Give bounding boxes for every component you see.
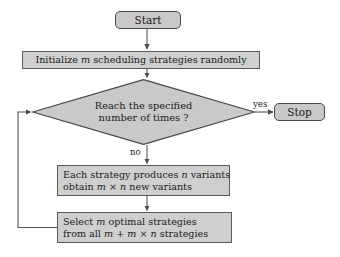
node-decision-label: Reach the specified number of times ? [95,100,192,124]
node-produce-variants[interactable]: Each strategy produces n variants obtain… [57,165,230,196]
select-line-2: from all m + m × n strategies [58,228,208,240]
node-stop[interactable]: Stop [274,103,325,121]
variants-line-2: obtain m × n new variants [58,181,192,193]
flowchart-canvas: Start Initialize m scheduling strategies… [0,0,340,257]
node-select-optimal[interactable]: Select m optimal strategies from all m +… [57,212,232,243]
select-line-1: Select m optimal strategies [58,216,197,228]
node-initialize-label: Initialize m scheduling strategies rando… [35,54,246,66]
node-initialize[interactable]: Initialize m scheduling strategies rando… [22,51,260,69]
decision-line-1: Reach the specified [95,100,192,112]
edge-label-no: no [130,147,141,157]
edge-label-yes: yes [253,99,267,109]
node-stop-label: Stop [287,106,311,119]
variants-line-1: Each strategy produces n variants [58,169,230,181]
decision-line-2: number of times ? [95,112,192,124]
node-decision[interactable]: Reach the specified number of times ? [32,79,255,145]
node-start-label: Start [135,14,162,27]
node-start[interactable]: Start [115,11,181,29]
